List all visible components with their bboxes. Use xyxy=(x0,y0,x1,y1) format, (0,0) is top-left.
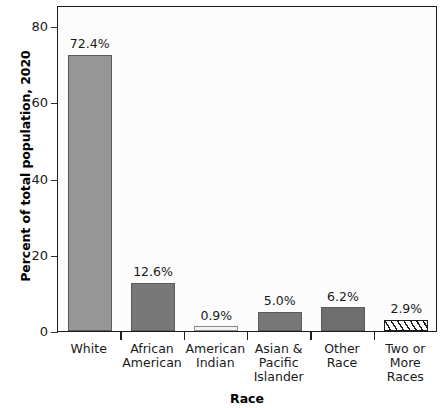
x-axis-tick-mark xyxy=(310,332,311,340)
x-axis-category-label-line: Islander xyxy=(247,370,310,384)
x-axis-category-label-line: American xyxy=(184,342,247,356)
x-axis-category-label: AmericanIndian xyxy=(184,342,247,370)
bar-value-label: 2.9% xyxy=(372,303,440,316)
x-axis-category-label-line: More xyxy=(374,356,437,370)
x-axis-category-label-line: Pacific xyxy=(247,356,310,370)
x-axis-category-label-line: Other xyxy=(310,342,373,356)
bar xyxy=(258,312,302,331)
x-axis-tick-mark xyxy=(184,332,185,340)
bar-chart: Percent of total population, 2020 020406… xyxy=(0,0,448,408)
x-axis-title: Race xyxy=(57,391,437,406)
bar-value-label: 12.6% xyxy=(119,266,187,279)
x-axis-tick-mark xyxy=(120,332,121,340)
y-axis-title: Percent of total population, 2020 xyxy=(14,0,36,336)
bar xyxy=(384,320,428,331)
x-axis-category-label-line: Races xyxy=(374,370,437,384)
bar-value-label: 72.4% xyxy=(56,38,124,51)
y-axis-tick-mark xyxy=(51,332,58,333)
x-axis-category-label: Asian &PacificIslander xyxy=(247,342,310,384)
y-axis-tick-label: 40 xyxy=(22,173,48,186)
x-axis-category-label-line: Two or xyxy=(374,342,437,356)
x-axis-category-label-line: Indian xyxy=(184,356,247,370)
bar xyxy=(194,326,238,331)
x-axis-category-label-line: American xyxy=(120,356,183,370)
x-axis-category-label-line: Asian & xyxy=(247,342,310,356)
bar xyxy=(321,307,365,331)
x-axis-category-label-line: African xyxy=(120,342,183,356)
bar xyxy=(68,55,112,331)
bar-value-label: 0.9% xyxy=(182,310,250,323)
plot-area: 72.4%12.6%0.9%5.0%6.2%2.9% xyxy=(57,6,437,332)
x-axis-category-label: White xyxy=(57,342,120,356)
x-axis-category-label-line: White xyxy=(57,342,120,356)
y-axis-tick-label: 0 xyxy=(22,325,48,338)
bar-value-label: 6.2% xyxy=(309,291,377,304)
y-axis-tick-label: 60 xyxy=(22,96,48,109)
bar xyxy=(131,283,175,331)
x-axis-category-label: OtherRace xyxy=(310,342,373,370)
x-axis-category-label: Two orMoreRaces xyxy=(374,342,437,384)
bars-container: 72.4%12.6%0.9%5.0%6.2%2.9% xyxy=(58,7,436,331)
x-axis-tick-mark xyxy=(374,332,375,340)
y-axis-tick-label: 20 xyxy=(22,249,48,262)
x-axis-category-label: AfricanAmerican xyxy=(120,342,183,370)
x-axis-tick-mark xyxy=(247,332,248,340)
y-axis-tick-label: 80 xyxy=(22,20,48,33)
x-axis-category-label-line: Race xyxy=(310,356,373,370)
bar-value-label: 5.0% xyxy=(246,295,314,308)
